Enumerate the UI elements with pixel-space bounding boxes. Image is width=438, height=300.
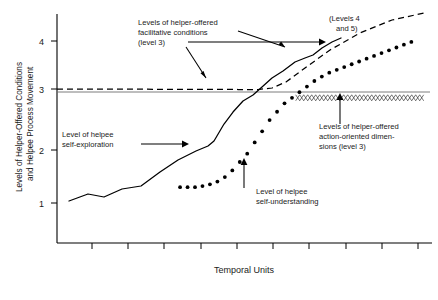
levels45-line-2: and 5) [336,24,358,33]
self-understanding-point [186,185,190,189]
self-understanding-point [223,175,227,179]
y-tick-label-2: 2 [39,146,44,156]
self-understanding-point [260,129,264,133]
self-understanding-point [283,101,287,105]
y-ticks-group [51,41,57,203]
self-understanding-line-1: Level of helpee [256,187,308,196]
facilitative-leader-2 [238,31,285,47]
self-exploration-line-1: Level of helpee [62,130,114,139]
self-understanding-point [290,96,294,100]
facilitative-line-3: (level 3) [138,38,165,47]
self-understanding-point [305,85,309,89]
annotation-self-understanding: Level of helpee self-understanding [241,158,319,206]
self-exploration-arrowhead [182,141,189,148]
annotation-self-exploration: Level of helpee self-exploration [62,130,189,149]
self-understanding-point [409,40,413,44]
self-understanding-point [230,168,234,172]
self-understanding-point [402,43,406,47]
facilitative-line-1: Levels of helper-offered [138,18,218,27]
x-axis-title: Temporal Units [214,265,275,275]
self-understanding-point [395,46,399,50]
self-understanding-point [387,48,391,52]
y-tick-labels: 4 3 2 1 [39,37,44,209]
self-understanding-point [342,65,346,69]
levels45-arrowhead [319,39,326,46]
x-ticks-group [92,243,418,249]
self-understanding-point [327,71,331,75]
y-axis-title-line-1: Levels of Helper-Offered Conditions [15,62,24,192]
self-understanding-point [201,184,205,188]
self-exploration-line-2: self-exploration [62,140,114,149]
self-understanding-point [372,54,376,58]
self-understanding-point [215,180,219,184]
self-understanding-point [298,90,302,94]
facilitative-arrowhead-1 [201,71,207,78]
self-understanding-point [365,57,369,61]
self-understanding-point [335,68,339,72]
self-understanding-point [253,141,257,145]
self-understanding-line-2: self-understanding [256,197,318,206]
action-oriented-line-3: sions (level 3) [319,142,366,151]
chart-svg: 4 3 2 1 Levels of helper-offered facilit… [0,0,438,300]
self-understanding-point [178,185,182,189]
y-axis-title: Levels of Helper-Offered Conditions and … [15,62,35,192]
y-tick-label-4: 4 [39,37,44,47]
action-oriented-line-2: action-oriented dimen- [319,132,395,141]
self-understanding-point [312,79,316,83]
levels45-line-1: (Levels 4 [329,14,360,23]
chart-figure: 4 3 2 1 Levels of helper-offered facilit… [0,0,438,300]
y-axis-title-line-2: and Helpee Process Movement [26,66,35,181]
self-exploration-curve [69,38,341,201]
self-understanding-point [238,160,242,164]
self-understanding-point [320,75,324,79]
y-tick-label-3: 3 [39,85,44,95]
self-understanding-point [380,51,384,55]
self-understanding-point [268,118,272,122]
self-understanding-arrowhead [241,158,248,165]
self-understanding-point [350,62,354,66]
y-tick-label-1: 1 [39,199,44,209]
self-understanding-point [275,110,279,114]
self-understanding-point [245,152,249,156]
action-oriented-dimensions-line [296,95,424,101]
action-oriented-line-1: Levels of helper-offered [319,122,399,131]
self-understanding-point [208,182,212,186]
facilitative-line-2: facilitative conditions [138,28,208,37]
facilitative-conditions-curve [57,13,424,90]
annotation-facilitative-conditions: Levels of helper-offered facilitative co… [138,18,285,78]
self-understanding-point [357,60,361,64]
annotation-action-oriented: Levels of helper-offered action-oriented… [319,93,399,151]
self-understanding-point [193,185,197,189]
